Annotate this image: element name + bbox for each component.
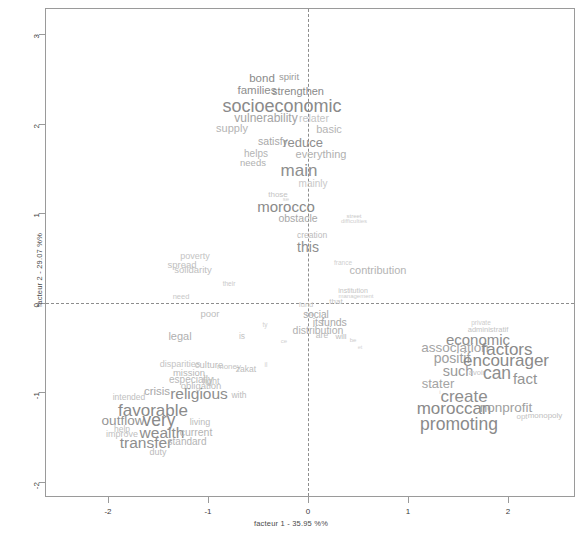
word-label: creation <box>297 230 327 239</box>
word-label: strengthen <box>272 85 324 96</box>
word-label: current <box>180 426 213 437</box>
x-tick-label: -1 <box>204 507 211 516</box>
word-label: is <box>239 332 245 341</box>
word-label: duty <box>149 448 166 457</box>
word-label: crisis <box>144 387 170 399</box>
word-label: needs <box>240 158 266 168</box>
word-label: et <box>358 345 363 351</box>
y-tick-label: 3 <box>32 34 41 38</box>
word-label: fact <box>513 370 537 385</box>
word-label: i <box>439 389 440 395</box>
word-label: supply <box>216 123 248 134</box>
word-label: are <box>316 331 328 340</box>
x-tick-mark <box>408 496 409 503</box>
word-label: be <box>350 337 357 343</box>
word-label: with <box>231 391 246 400</box>
word-label: fund <box>299 301 314 309</box>
x-tick-mark <box>308 496 309 503</box>
y-axis-title: facteur 2 - 29.07 %% <box>35 233 44 307</box>
word-label: monopoly <box>528 412 563 420</box>
word-label: need <box>173 294 190 302</box>
word-label: poor <box>200 309 219 319</box>
word-label: that <box>329 298 342 306</box>
word-label: solidarity <box>174 265 212 275</box>
word-label: can <box>483 366 511 384</box>
word-label: mainly <box>299 179 328 189</box>
word-label: ce <box>281 338 287 344</box>
word-label: families <box>238 85 277 97</box>
x-tick-label: 2 <box>506 507 510 516</box>
y-tick-label: 1 <box>32 213 41 217</box>
word-label: promoting <box>420 417 498 435</box>
word-label: opt <box>516 413 527 421</box>
word-label: everything <box>296 149 347 160</box>
word-label: religious <box>170 386 228 402</box>
word-label: ty <box>262 322 267 329</box>
word-label: standard <box>168 437 207 447</box>
word-cloud-plot: 3210-1-2 -2-1012 bondspiritfamiliesstren… <box>0 0 582 540</box>
word-label: legal <box>168 330 191 341</box>
word-label: contribution <box>350 264 407 275</box>
x-tick-mark <box>208 496 209 503</box>
word-label: main <box>281 162 318 179</box>
word-label: obstacle <box>278 212 317 223</box>
x-tick-label: 0 <box>306 507 310 516</box>
x-tick-mark <box>108 496 109 503</box>
word-label: spirit <box>279 72 299 82</box>
y-tick-label: -2 <box>32 482 41 489</box>
word-label: this <box>297 240 319 254</box>
word-label: basic <box>316 124 342 135</box>
word-label: reduce <box>283 135 323 148</box>
x-tick-label: -2 <box>104 507 111 516</box>
plot-area: 3210-1-2 -2-1012 bondspiritfamiliesstren… <box>45 8 575 497</box>
x-tick-mark <box>508 496 509 503</box>
word-label: zakat <box>236 365 256 374</box>
word-label: difficulties <box>341 218 367 224</box>
word-label: il <box>265 362 268 369</box>
word-label: will <box>335 333 346 341</box>
x-axis-title: facteur 1 - 35.95 %% <box>0 519 582 528</box>
x-tick-label: 1 <box>406 507 410 516</box>
word-label: management <box>338 293 373 299</box>
y-tick-label: 2 <box>32 124 41 128</box>
y-tick-label: -1 <box>32 392 41 399</box>
word-label: their <box>223 281 236 288</box>
